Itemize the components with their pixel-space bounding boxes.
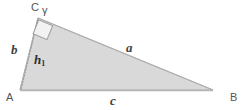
geometry-figure: C γ A B b a c h1 [0, 0, 242, 110]
vertex-label-B: B [230, 92, 237, 103]
side-label-a: a [126, 41, 133, 54]
vertex-label-C: C [31, 2, 39, 13]
side-label-c: c [110, 94, 116, 107]
vertex-label-A: A [6, 92, 13, 103]
angle-label-gamma: γ [42, 5, 48, 16]
altitude-label-h1-subscript: 1 [41, 59, 45, 68]
side-label-b: b [11, 43, 18, 56]
altitude-label-h1: h1 [34, 53, 45, 66]
